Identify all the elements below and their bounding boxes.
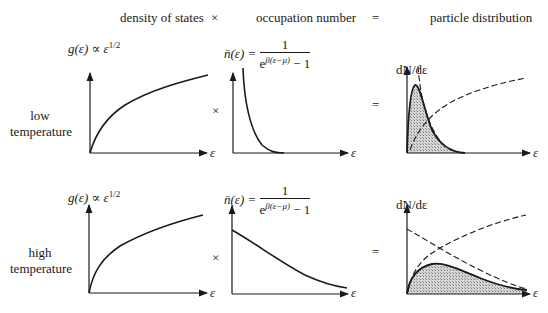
row2-occupation-plot (232, 206, 348, 294)
row1-dos-plot (90, 73, 208, 153)
dos-curve (90, 75, 208, 153)
row1-distribution-plot (407, 66, 530, 153)
row1-occupation-plot (233, 68, 348, 153)
dos-curve (89, 215, 203, 293)
row2-distribution-plot (407, 205, 530, 294)
row2-dos-plot (89, 205, 207, 293)
distribution-shaded-area (407, 85, 465, 153)
occupation-curve (243, 68, 284, 153)
plots-canvas (0, 0, 548, 313)
distribution-shaded-area (407, 264, 527, 294)
occupation-curve (232, 230, 347, 288)
